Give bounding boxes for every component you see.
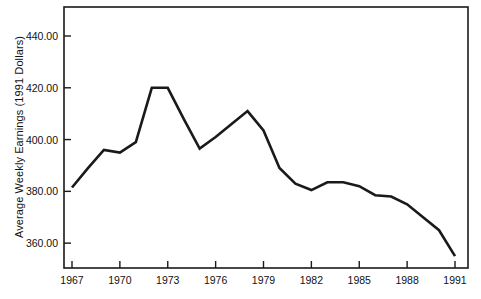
x-tick-label: 1967 bbox=[50, 274, 94, 286]
plot-area bbox=[0, 0, 481, 299]
x-tick-label: 1973 bbox=[146, 274, 190, 286]
x-tick-label: 1988 bbox=[385, 274, 429, 286]
x-tick-label: 1970 bbox=[98, 274, 142, 286]
x-tick-label: 1985 bbox=[337, 274, 381, 286]
y-axis-ticks bbox=[64, 36, 71, 243]
x-axis-ticks bbox=[72, 261, 455, 268]
data-series-group bbox=[72, 88, 455, 256]
line-chart: 360.00380.00400.00420.00440.00 Average W… bbox=[0, 0, 481, 299]
series-line-earnings bbox=[72, 88, 455, 256]
x-tick-label: 1982 bbox=[289, 274, 333, 286]
x-tick-label: 1991 bbox=[433, 274, 477, 286]
x-tick-label: 1976 bbox=[194, 274, 238, 286]
x-tick-label: 1979 bbox=[242, 274, 286, 286]
